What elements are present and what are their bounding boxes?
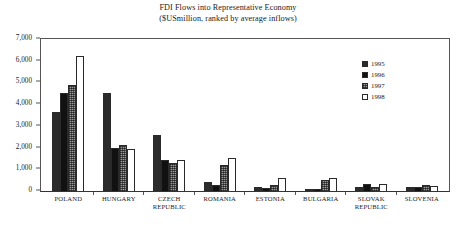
bar (76, 56, 84, 191)
bar (305, 189, 313, 191)
bar-group (195, 39, 246, 191)
bar (430, 186, 438, 191)
bar (406, 187, 414, 191)
chart-figure: FDI Flows into Representative Economy ($… (0, 0, 456, 240)
x-axis-category-label: ROMANIA (195, 195, 246, 211)
y-axis-tick-label: 3,000 (16, 121, 32, 129)
y-axis-tick-label: 0 (28, 186, 32, 194)
bar (119, 145, 127, 191)
legend-label: 1997 (371, 82, 385, 90)
bar (212, 185, 220, 191)
y-axis-tick-label: 2,000 (16, 143, 32, 151)
y-axis: 7,0006,0005,0004,0003,0002,0001,0000 (0, 38, 36, 192)
bar (355, 187, 363, 191)
chart-subtitle: ($USmillion, ranked by average inflows) (0, 13, 456, 24)
bar (254, 187, 262, 191)
y-axis-tick-label: 4,000 (16, 99, 32, 107)
y-axis-tick-label: 6,000 (16, 56, 32, 64)
legend-item: 1996 (362, 70, 385, 80)
x-axis-category-label: SLOVENIA (397, 195, 448, 211)
legend-swatch-icon (362, 61, 368, 67)
plot-area (41, 39, 449, 191)
bar-group (245, 39, 296, 191)
x-axis-category-label: SLOVAK REPUBLIC (346, 195, 397, 211)
x-axis: POLANDHUNGARYCZECH REPUBLICROMANIAESTONI… (41, 195, 449, 211)
x-axis-category-label: POLAND (43, 195, 94, 211)
bar (60, 93, 68, 191)
x-axis-category-label: CZECH REPUBLIC (144, 195, 195, 211)
y-axis-tick-label: 5,000 (16, 77, 32, 85)
x-axis-category-label: HUNGARY (94, 195, 145, 211)
bar (177, 160, 185, 191)
bar (169, 163, 177, 191)
bar-group (94, 39, 145, 191)
bar-group (397, 39, 448, 191)
bar (228, 158, 236, 191)
y-axis-tick-label: 1,000 (16, 164, 32, 172)
bar-group (296, 39, 347, 191)
bar (220, 165, 228, 191)
legend-item: 1995 (362, 59, 385, 69)
legend-swatch-icon (362, 72, 368, 78)
chart-title: FDI Flows into Representative Economy (0, 2, 456, 13)
chart-title-block: FDI Flows into Representative Economy ($… (0, 2, 456, 24)
bar (52, 112, 60, 191)
bar (379, 184, 387, 191)
bar (153, 135, 161, 191)
bar (371, 187, 379, 191)
legend-swatch-icon (362, 94, 368, 100)
bar (422, 185, 430, 192)
bar (278, 178, 286, 191)
x-axis-category-label: BULGARIA (296, 195, 347, 211)
legend-label: 1995 (371, 60, 385, 68)
bar (161, 160, 169, 191)
bar-group (144, 39, 195, 191)
y-axis-tick-label: 7,000 (16, 34, 32, 42)
legend-item: 1997 (362, 81, 385, 91)
bar (414, 187, 422, 191)
bar (204, 182, 212, 191)
legend-swatch-icon (362, 83, 368, 89)
bar (111, 148, 119, 191)
bar (270, 185, 278, 191)
bar (363, 184, 371, 191)
x-axis-category-label: ESTONIA (245, 195, 296, 211)
bar (262, 188, 270, 191)
legend-label: 1996 (371, 71, 385, 79)
bar (103, 93, 111, 191)
legend-item: 1998 (362, 92, 385, 102)
bar (329, 178, 337, 191)
bar-group (43, 39, 94, 191)
bar (68, 85, 76, 191)
bar (127, 149, 135, 191)
chart-legend: 1995199619971998 (362, 59, 385, 103)
bar (313, 189, 321, 191)
legend-label: 1998 (371, 93, 385, 101)
bar (321, 180, 329, 191)
